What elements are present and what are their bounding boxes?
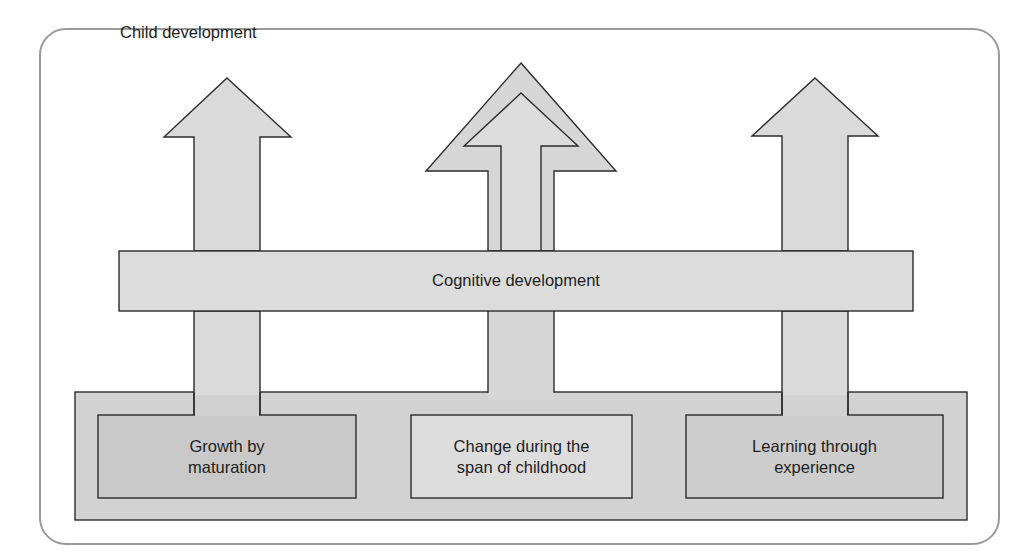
box-label-line2: maturation (188, 457, 266, 478)
diagram-title: Child development (120, 22, 320, 43)
box-label-change: Change during the span of childhood (411, 415, 632, 498)
middle-arrow-lower-stem (488, 305, 554, 400)
box-label-line2: span of childhood (457, 457, 586, 478)
box-label-line2: experience (774, 457, 855, 478)
box-label-line1: Growth by (189, 436, 264, 457)
box-label-growth: Growth by maturation (98, 415, 356, 498)
box-label-line1: Change during the (454, 436, 590, 457)
box-label-learning: Learning through experience (686, 415, 943, 498)
box-label-line1: Learning through (752, 436, 877, 457)
band-label: Cognitive development (119, 270, 913, 291)
